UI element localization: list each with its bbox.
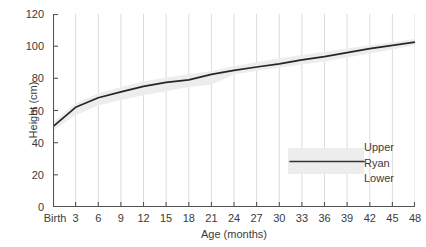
x-tick-label-9: 9 <box>118 213 124 224</box>
y-tick-label-0: 0 <box>4 202 44 213</box>
x-tick-label-24: 24 <box>228 213 240 224</box>
legend-label-lower: Lower <box>364 171 394 187</box>
growth-chart: Height (cm) Age (months) 120 100 80 60 4… <box>0 0 426 247</box>
x-tick-label-3: 3 <box>73 213 79 224</box>
legend-label-ryan: Ryan <box>364 156 394 172</box>
y-tick-label-80: 80 <box>4 73 44 84</box>
x-tick-label-birth: Birth <box>44 213 67 224</box>
y-tick-label-60: 60 <box>4 105 44 116</box>
x-tick-label-15: 15 <box>160 213 172 224</box>
x-tick-label-21: 21 <box>205 213 217 224</box>
x-tick-label-39: 39 <box>341 213 353 224</box>
x-tick-label-42: 42 <box>364 213 376 224</box>
y-tick-label-20: 20 <box>4 169 44 180</box>
x-axis-title: Age (months) <box>53 228 415 240</box>
y-tick-label-120: 120 <box>4 9 44 20</box>
y-tick-label-40: 40 <box>4 137 44 148</box>
legend-label-list: Upper Ryan Lower <box>364 140 394 187</box>
x-tick-label-48: 48 <box>409 213 421 224</box>
chart-legend: Upper Ryan Lower <box>288 140 408 186</box>
x-tick-label-6: 6 <box>95 213 101 224</box>
y-tick-label-100: 100 <box>4 41 44 52</box>
x-tick-label-18: 18 <box>183 213 195 224</box>
x-tick-label-36: 36 <box>318 213 330 224</box>
x-tick-label-45: 45 <box>386 213 398 224</box>
x-tick-label-27: 27 <box>250 213 262 224</box>
legend-label-upper: Upper <box>364 140 394 156</box>
x-tick-label-12: 12 <box>137 213 149 224</box>
x-tick-label-33: 33 <box>296 213 308 224</box>
x-tick-label-30: 30 <box>273 213 285 224</box>
